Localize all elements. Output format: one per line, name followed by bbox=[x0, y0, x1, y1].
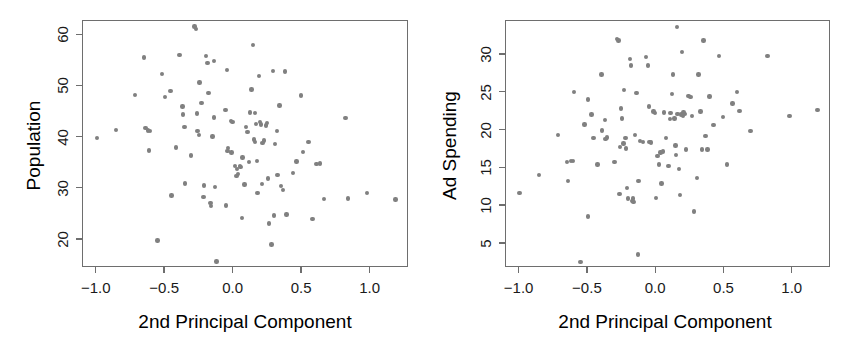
scatter-point bbox=[644, 55, 648, 59]
x-axis-tick bbox=[369, 267, 370, 273]
scatter-point bbox=[306, 140, 310, 144]
scatter-point bbox=[572, 90, 576, 94]
scatter-point bbox=[517, 191, 521, 195]
y-axis-tick-label: 20 bbox=[478, 110, 493, 150]
scatter-point bbox=[160, 72, 164, 76]
scatter-point bbox=[269, 242, 273, 246]
scatter-point bbox=[213, 185, 217, 189]
scatter-point bbox=[277, 103, 281, 107]
scatter-point bbox=[595, 162, 599, 166]
scatter-point bbox=[283, 69, 287, 73]
scatter-point bbox=[621, 141, 625, 145]
scatter-point bbox=[655, 154, 659, 158]
scatter-points-ad-spending bbox=[506, 21, 829, 266]
x-axis-tick bbox=[300, 267, 301, 273]
scatter-point bbox=[711, 123, 715, 127]
y-axis-tick-label: 30 bbox=[55, 168, 70, 208]
scatter-point bbox=[262, 138, 266, 142]
x-axis-tick-label: 0.0 bbox=[625, 280, 685, 295]
scatter-point bbox=[281, 188, 285, 192]
scatter-point bbox=[586, 97, 590, 101]
scatter-point bbox=[605, 135, 609, 139]
scatter-point bbox=[202, 183, 206, 187]
scatter-point bbox=[206, 91, 210, 95]
y-axis-title-population: Population bbox=[24, 66, 43, 226]
scatter-point bbox=[230, 120, 234, 124]
scatter-point bbox=[671, 72, 675, 76]
scatter-point bbox=[670, 92, 674, 96]
scatter-point bbox=[612, 160, 616, 164]
scatter-point bbox=[623, 136, 627, 140]
scatter-point bbox=[257, 74, 261, 78]
scatter-point bbox=[247, 160, 251, 164]
x-axis-tick bbox=[723, 267, 724, 273]
y-axis-tick bbox=[76, 238, 82, 239]
x-axis-tick-label: −0.5 bbox=[134, 280, 194, 295]
y-axis-title-ad-spending: Ad Spending bbox=[440, 51, 459, 241]
scatter-point bbox=[625, 186, 629, 190]
scatter-point bbox=[169, 193, 173, 197]
x-axis-title-population: 2nd Principal Component bbox=[75, 312, 415, 331]
scatter-point bbox=[582, 122, 586, 126]
scatter-point bbox=[537, 173, 541, 177]
scatter-point bbox=[155, 238, 159, 242]
y-axis-tick-label: 60 bbox=[55, 15, 70, 55]
figure-scatter-panels: 2030405060−1.0−0.50.00.51.0 Population 2… bbox=[0, 0, 847, 355]
scatter-point bbox=[721, 115, 725, 119]
scatter-point bbox=[672, 116, 676, 120]
scatter-point bbox=[253, 140, 257, 144]
x-axis-tick bbox=[232, 267, 233, 273]
scatter-point bbox=[684, 147, 688, 151]
scatter-point bbox=[199, 101, 203, 105]
scatter-point bbox=[142, 55, 146, 59]
scatter-point bbox=[705, 147, 709, 151]
scatter-point bbox=[641, 140, 645, 144]
scatter-point bbox=[182, 125, 186, 129]
scatter-point bbox=[343, 116, 347, 120]
x-axis-tick bbox=[655, 267, 656, 273]
scatter-point bbox=[180, 104, 184, 108]
scatter-point bbox=[618, 145, 622, 149]
scatter-point bbox=[659, 181, 663, 185]
scatter-point bbox=[668, 117, 672, 121]
scatter-point bbox=[240, 155, 244, 159]
y-axis-tick-label: 15 bbox=[478, 148, 493, 188]
scatter-point bbox=[678, 193, 682, 197]
y-axis-tick-label: 30 bbox=[478, 34, 493, 74]
scatter-point bbox=[266, 176, 270, 180]
scatter-point bbox=[707, 94, 711, 98]
x-axis-tick bbox=[95, 267, 96, 273]
y-axis-tick bbox=[76, 136, 82, 137]
scatter-point bbox=[717, 54, 721, 58]
scatter-point bbox=[133, 93, 137, 97]
y-axis-tick-label: 50 bbox=[55, 66, 70, 106]
scatter-point bbox=[765, 54, 769, 58]
y-axis-tick-label: 20 bbox=[55, 219, 70, 259]
scatter-point bbox=[654, 196, 658, 200]
scatter-point bbox=[636, 179, 640, 183]
scatter-point bbox=[224, 203, 228, 207]
x-axis-title-ad-spending: 2nd Principal Component bbox=[495, 312, 835, 331]
scatter-point bbox=[657, 162, 661, 166]
x-axis-tick-label: 0.0 bbox=[203, 280, 263, 295]
scatter-point bbox=[589, 112, 593, 116]
scatter-point bbox=[586, 214, 590, 218]
scatter-point bbox=[629, 63, 633, 67]
scatter-point bbox=[700, 147, 704, 151]
y-axis-tick-label: 5 bbox=[478, 223, 493, 263]
plot-frame-population bbox=[82, 20, 408, 267]
scatter-point bbox=[225, 68, 229, 72]
x-axis-tick-label: 0.5 bbox=[693, 280, 753, 295]
scatter-point bbox=[272, 213, 276, 217]
y-axis-tick-label: 40 bbox=[55, 117, 70, 157]
scatter-point bbox=[183, 181, 187, 185]
scatter-point bbox=[600, 128, 604, 132]
scatter-point bbox=[284, 212, 288, 216]
scatter-point bbox=[748, 129, 752, 133]
scatter-point bbox=[674, 153, 678, 157]
plot-frame-ad-spending bbox=[505, 20, 830, 267]
scatter-point bbox=[299, 93, 303, 97]
scatter-point bbox=[695, 176, 699, 180]
scatter-point bbox=[260, 182, 264, 186]
scatter-point bbox=[229, 150, 233, 154]
